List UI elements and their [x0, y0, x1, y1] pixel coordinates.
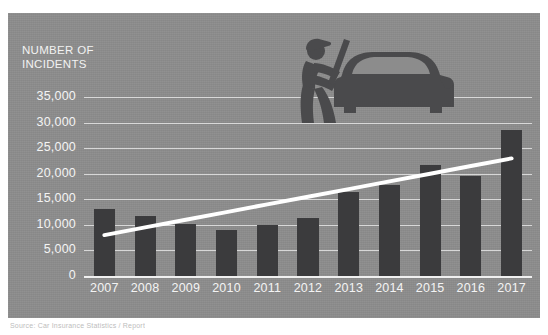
x-tick-label-2011: 2011: [247, 281, 288, 295]
y-tick-label: 0: [16, 268, 76, 282]
y-tick-label: 10,000: [16, 217, 76, 231]
gridline-0: [84, 276, 532, 278]
x-axis-labels: 2007200820092010201120122013201420152016…: [84, 281, 532, 299]
x-tick-label-2008: 2008: [125, 281, 166, 295]
y-tick-label: 25,000: [16, 140, 76, 154]
y-tick-label: 15,000: [16, 191, 76, 205]
x-tick-label-2016: 2016: [451, 281, 492, 295]
x-tick-label-2009: 2009: [166, 281, 207, 295]
y-tick-label: 20,000: [16, 166, 76, 180]
car-theft-silhouette-illustration: [284, 35, 484, 127]
x-tick-label-2013: 2013: [328, 281, 369, 295]
x-tick-label-2014: 2014: [369, 281, 410, 295]
x-tick-label-2015: 2015: [410, 281, 451, 295]
y-axis-title: NUMBER OF INCIDENTS: [22, 44, 94, 71]
x-tick-label-2010: 2010: [206, 281, 247, 295]
x-tick-label-2007: 2007: [84, 281, 125, 295]
y-tick-label: 30,000: [16, 115, 76, 129]
y-tick-label: 5,000: [16, 242, 76, 256]
y-tick-label: 35,000: [16, 89, 76, 103]
source-note: Source: Car Insurance Statistics / Repor…: [10, 322, 145, 332]
x-tick-label-2017: 2017: [491, 281, 532, 295]
chart-stage: NUMBER OF INCIDENTS 35,00030,00025,00020…: [0, 0, 548, 335]
x-tick-label-2012: 2012: [288, 281, 329, 295]
